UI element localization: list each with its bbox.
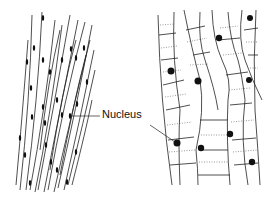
diagram-drawing	[0, 0, 273, 198]
nucleus-label: Nucleus	[102, 108, 142, 120]
muscle-tissue-diagram: Nucleus	[0, 0, 273, 198]
cardiac-muscle-panel	[158, 10, 262, 185]
smooth-muscle-panel	[16, 12, 95, 192]
cardiac-muscle-nuclei	[168, 15, 256, 165]
